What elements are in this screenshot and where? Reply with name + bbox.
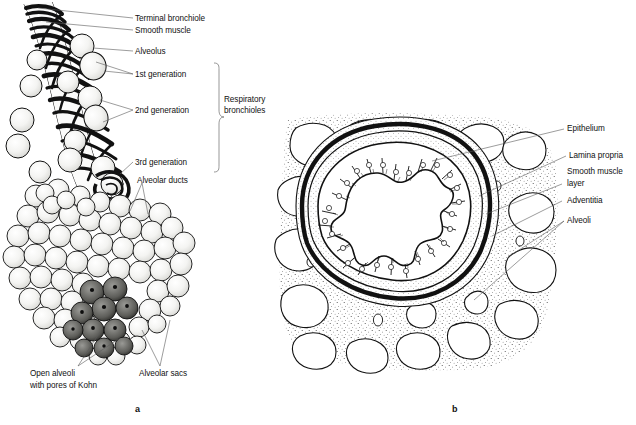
label-open-alveoli-line2: with pores of Kohn [30, 381, 97, 392]
label-alveolus: Alveolus [135, 47, 166, 58]
label-alveolar-sacs: Alveolar sacs [139, 369, 187, 380]
label-smooth-muscle-layer-line2: layer [567, 179, 585, 190]
label-1st-generation: 1st generation [135, 70, 186, 81]
label-3rd-generation: 3rd generation [135, 158, 187, 169]
label-alveoli: Alveoli [567, 216, 591, 227]
label-terminal-bronchiole: Terminal bronchiole [135, 14, 205, 25]
figure-container: Terminal bronchiole Smooth muscle Alveol… [0, 0, 636, 425]
panel-letter-a: a [135, 404, 140, 414]
respiratory-bronchioles-brace [214, 63, 224, 172]
label-adventitia: Adventitia [567, 196, 602, 207]
label-respiratory-bronchioles-line2: bronchioles [224, 106, 265, 117]
label-respiratory-bronchioles-line1: Respiratory [224, 95, 265, 106]
label-epithelium: Epithelium [567, 124, 605, 135]
label-2nd-generation: 2nd generation [135, 106, 189, 117]
label-lamina-propria: Lamina propria [569, 151, 623, 162]
panel-letter-b: b [452, 404, 458, 414]
bronchiole-wall [296, 117, 499, 306]
panel-b-artwork [275, 113, 566, 373]
label-open-alveoli-line1: Open alveoli [30, 369, 75, 380]
label-alveolar-ducts: Alveolar ducts [137, 176, 188, 187]
label-smooth-muscle: Smooth muscle [135, 26, 191, 37]
figure-artwork [0, 0, 636, 425]
label-smooth-muscle-layer-line1: Smooth muscle [567, 167, 623, 178]
